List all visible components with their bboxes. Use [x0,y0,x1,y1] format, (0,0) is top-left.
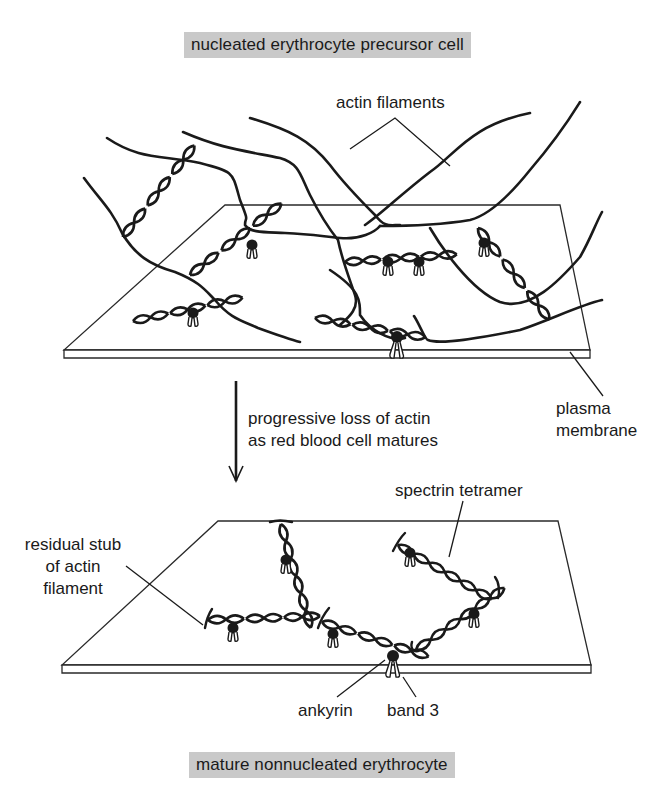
top-membrane-plate [64,205,590,358]
label-residual-line1: residual stub [18,534,128,556]
label-transition-line2: as red blood cell matures [248,430,438,452]
title-mature-erythrocyte: mature nonnucleated erythrocyte [189,752,455,778]
label-plasma-line2: membrane [556,420,637,442]
bottom-membrane-plate [62,521,591,673]
down-arrow [229,381,243,481]
label-spectrin-tetramer: spectrin tetramer [395,480,523,502]
label-actin-filaments: actin filaments [336,92,445,114]
label-transition-line1: progressive loss of actin [248,408,438,430]
label-plasma-membrane: plasma membrane [556,398,637,442]
label-ankyrin: ankyrin [298,700,353,722]
label-plasma-line1: plasma [556,398,637,420]
label-transition: progressive loss of actin as red blood c… [248,408,438,452]
label-residual-line3: filament [18,578,128,600]
label-residual-line2: of actin [18,556,128,578]
label-residual-stub: residual stub of actin filament [18,534,128,600]
actin-filaments-leaders [350,118,450,166]
membrane-diagram [0,0,667,788]
label-band3: band 3 [387,700,439,722]
